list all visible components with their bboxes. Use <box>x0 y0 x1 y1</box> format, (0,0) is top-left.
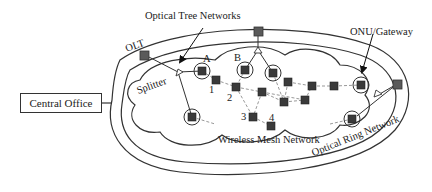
optical-tree-label: Optical Tree Networks <box>145 10 241 21</box>
node-label-4: 4 <box>269 112 274 123</box>
node-label-b: B <box>234 52 241 63</box>
node-label-a: A <box>203 53 211 64</box>
mesh-routers <box>188 66 365 130</box>
node-label-1: 1 <box>209 84 214 95</box>
splitter-left-icon <box>176 69 183 76</box>
network-diagram: Central Office Optical Tree Networks OLT… <box>0 0 432 192</box>
splitter-right-icon <box>374 90 382 97</box>
node-label-2: 2 <box>227 92 232 103</box>
central-office-box: Central Office <box>20 93 102 113</box>
wireless-mesh-cloud <box>128 47 370 145</box>
node-label-3: 3 <box>241 111 246 122</box>
olt-square-right <box>393 80 402 89</box>
splitter-top-icon <box>254 47 262 53</box>
wireless-mesh-label: Wireless Mesh Network <box>218 134 320 145</box>
olt-square-left <box>140 51 149 60</box>
onu-gateway-label: ONU/Gateway <box>350 26 413 37</box>
olt-square-top <box>254 27 263 36</box>
